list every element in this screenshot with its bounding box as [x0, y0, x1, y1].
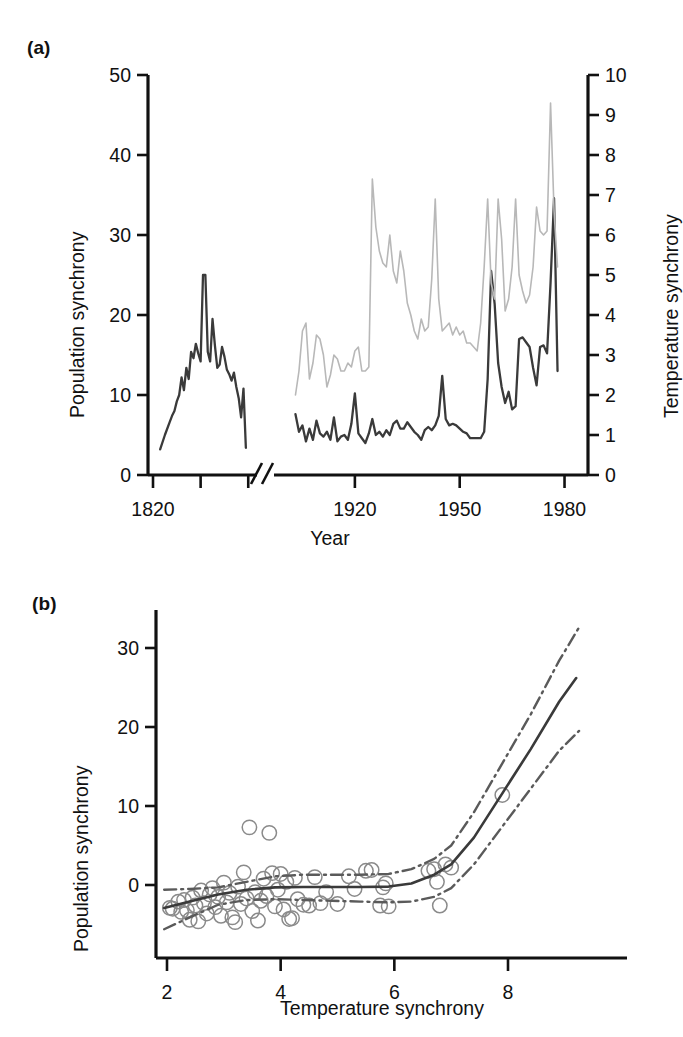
- panel-a-left-tick-label: 40: [109, 144, 131, 166]
- panel-b: (b) Population synchrony Temperature syn…: [0, 560, 683, 1037]
- scatter-point: [271, 883, 285, 897]
- panel-a-right-tick-label: 9: [605, 104, 616, 126]
- panel-b-plot: 01020302468: [0, 560, 683, 1037]
- panel-a-left-tick-label: 10: [109, 384, 131, 406]
- panel-a-right-tick-label: 5: [605, 264, 616, 286]
- panel-a-left-tick-label: 20: [109, 304, 131, 326]
- panel-a-right-tick-label: 2: [605, 384, 616, 406]
- panel-a-right-tick-label: 8: [605, 144, 616, 166]
- panel-a-right-tick-label: 3: [605, 344, 616, 366]
- panel-a-right-tick-label: 1: [605, 424, 616, 446]
- scatter-point: [288, 871, 302, 885]
- panel-a-right-tick-label: 0: [605, 464, 616, 486]
- panel-a-x-tick-label: 1980: [543, 498, 587, 520]
- panel-b-fit-line: [164, 678, 576, 908]
- scatter-point: [242, 820, 256, 834]
- panel-a: (a) Population synchrony Temperature syn…: [0, 0, 683, 560]
- scatter-point: [347, 882, 361, 896]
- scatter-point: [228, 915, 242, 929]
- axis-break-slash-2: [262, 463, 273, 484]
- scatter-point: [379, 876, 393, 890]
- panel-b-y-tick-label: 30: [117, 637, 139, 659]
- panel-a-right-tick-label: 6: [605, 224, 616, 246]
- panel-a-x-tick-label: 1950: [438, 498, 482, 520]
- figure-root: (a) Population synchrony Temperature syn…: [0, 0, 683, 1037]
- scatter-point: [308, 870, 322, 884]
- panel-a-series-population-late: [295, 198, 557, 443]
- panel-b-y-tick-label: 20: [117, 716, 139, 738]
- panel-a-left-tick-label: 0: [120, 464, 131, 486]
- scatter-point: [268, 899, 282, 913]
- panel-a-right-tick-label: 4: [605, 304, 616, 326]
- panel-a-series-population-early: [160, 275, 246, 449]
- panel-a-right-tick-label: 10: [605, 64, 627, 86]
- panel-b-y-tick-label: 10: [117, 795, 139, 817]
- panel-b-confidence-upper: [164, 627, 579, 889]
- scatter-point: [262, 826, 276, 840]
- panel-b-x-tick-label: 4: [275, 981, 286, 1003]
- scatter-point: [237, 865, 251, 879]
- panel-a-x-tick-label: 1920: [333, 498, 377, 520]
- panel-b-y-tick-label: 0: [128, 874, 139, 896]
- panel-a-left-tick-label: 30: [109, 224, 131, 246]
- panel-a-right-tick-label: 7: [605, 184, 616, 206]
- panel-a-plot: 010203040500123456789101820192019501980: [0, 0, 683, 560]
- panel-b-x-tick-label: 8: [503, 981, 514, 1003]
- panel-a-x-tick-label: 1820: [131, 498, 175, 520]
- scatter-point: [330, 897, 344, 911]
- panel-b-x-tick-label: 6: [389, 981, 400, 1003]
- scatter-point: [433, 898, 447, 912]
- panel-a-left-tick-label: 50: [109, 64, 131, 86]
- panel-b-x-tick-label: 2: [162, 981, 173, 1003]
